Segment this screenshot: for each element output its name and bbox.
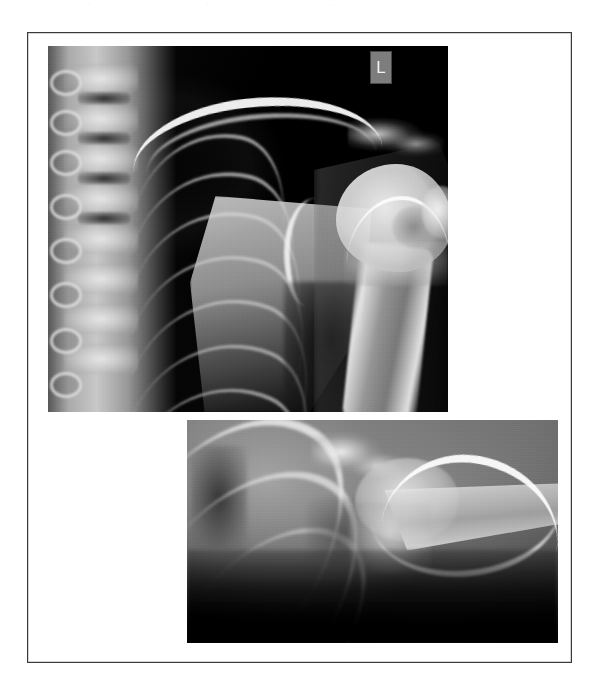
figure-frame: L xyxy=(27,32,572,663)
laterality-marker: L xyxy=(371,52,391,83)
artifact-fragment-1: · xyxy=(88,0,91,9)
page-bottom-artifact: · xyxy=(498,672,501,680)
artifact-fragment-3: · xyxy=(332,1,335,10)
laterality-marker-label: L xyxy=(376,59,385,76)
artifact-fragment-2: · xyxy=(206,0,209,9)
ap-shoulder-radiograph: L xyxy=(48,46,448,412)
page-top-artifacts: · · · xyxy=(0,0,606,22)
axillary-shoulder-radiograph xyxy=(187,420,558,643)
film-grain-overlay xyxy=(48,46,448,412)
film-grain-overlay xyxy=(187,420,558,643)
